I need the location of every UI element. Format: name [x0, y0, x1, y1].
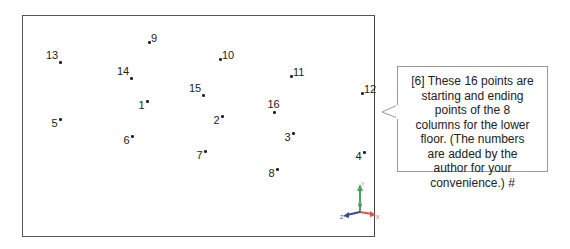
point-marker	[363, 151, 366, 154]
point-marker	[276, 168, 279, 171]
point-marker	[202, 94, 205, 97]
callout-line: [6] These 16 points are	[402, 74, 543, 89]
x-axis-label: X	[376, 214, 380, 220]
y-axis-label: Y	[361, 182, 365, 187]
callout-line: columns for the lower	[402, 118, 543, 133]
point-marker	[221, 115, 224, 118]
point-label: 7	[197, 150, 203, 161]
point-label: 9	[151, 33, 157, 44]
model-viewport	[22, 15, 375, 237]
point-label: 12	[364, 84, 376, 95]
z-axis-label: Z	[340, 214, 343, 220]
point-label: 10	[222, 50, 234, 61]
point-marker	[146, 100, 149, 103]
point-label: 6	[124, 135, 130, 146]
point-marker	[59, 118, 62, 121]
callout-line: points of the 8	[402, 103, 543, 118]
callout-line: floor. (The numbers	[402, 132, 543, 147]
point-marker	[59, 61, 62, 64]
point-label: 14	[117, 66, 129, 77]
point-marker	[273, 111, 276, 114]
point-label: 11	[293, 67, 304, 78]
point-label: 2	[214, 115, 220, 126]
point-marker	[130, 77, 133, 80]
point-label: 4	[356, 151, 362, 162]
point-marker	[292, 132, 295, 135]
point-label: 16	[268, 99, 280, 110]
axis-triad-icon: X Y Z	[340, 182, 380, 222]
point-marker	[131, 135, 134, 138]
point-label: 5	[52, 118, 58, 129]
point-label: 8	[269, 168, 275, 179]
point-label: 1	[139, 100, 145, 111]
point-label: 13	[46, 50, 58, 61]
point-label: 15	[189, 83, 201, 94]
callout-line: author for your	[402, 161, 543, 176]
callout-line: starting and ending	[402, 89, 543, 104]
annotation-callout: [6] These 16 points are starting and end…	[397, 66, 548, 172]
callout-line: are added by the	[402, 147, 543, 162]
point-marker	[204, 150, 207, 153]
point-label: 3	[285, 132, 291, 143]
callout-line: convenience.) #	[402, 176, 543, 191]
